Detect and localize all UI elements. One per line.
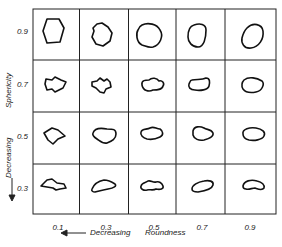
- grain-shape-r09-c09: [242, 24, 263, 48]
- grain-shapes: [41, 19, 265, 192]
- row-label-0.3: 0.3: [8, 184, 28, 193]
- grain-shape-r07-c03: [92, 78, 111, 93]
- grain-shape-r05-c07: [193, 127, 213, 141]
- col-label-0.9: 0.9: [230, 223, 270, 232]
- grain-shape-r09-c01: [43, 19, 64, 43]
- grain-shape-r05-c01: [44, 128, 65, 144]
- grain-shape-r07-c05: [142, 78, 164, 91]
- grain-shape-r09-c03: [92, 23, 112, 46]
- x-axis-label: Roundness: [145, 228, 185, 237]
- grain-shape-r03-c07: [192, 181, 213, 192]
- grain-shape-r05-c03: [93, 128, 116, 143]
- col-label-0.1: 0.1: [38, 223, 78, 232]
- col-label-0.7: 0.7: [182, 223, 222, 232]
- grain-shape-r03-c05: [141, 181, 163, 190]
- y-direction-label: Decreasing: [4, 138, 13, 178]
- row-label-0.9: 0.9: [8, 27, 28, 36]
- grain-shape-r05-c05: [141, 127, 163, 139]
- grain-shape-r09-c07: [188, 24, 206, 47]
- grain-shape-r07-c01: [45, 77, 66, 92]
- grain-shape-r03-c01: [41, 179, 66, 190]
- grain-shape-r09-c05: [137, 24, 162, 48]
- y-axis-label: Sphericity: [4, 73, 13, 108]
- grain-shape-r05-c09: [243, 128, 265, 141]
- grain-shape-r03-c03: [92, 180, 116, 192]
- grid-diagram: [0, 0, 282, 247]
- x-direction-label: Decreasing: [90, 228, 130, 237]
- grain-shape-r07-c07: [189, 78, 210, 90]
- grid-lines: [33, 9, 276, 214]
- grain-shape-r03-c09: [243, 180, 264, 189]
- grain-shape-r07-c09: [242, 78, 263, 93]
